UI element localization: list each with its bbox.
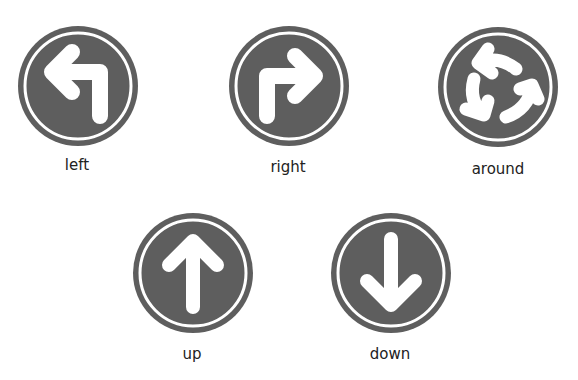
up-arrow-icon [131,211,255,335]
down-sign [329,211,453,335]
down-arrow-icon [329,211,453,335]
down-label: down [330,345,450,363]
left-label: left [17,156,137,174]
turn-around-arrows-icon [436,25,560,149]
right-label: right [228,158,348,176]
around-sign [436,25,560,149]
up-label: up [132,345,252,363]
right-sign [227,24,351,148]
up-sign [131,211,255,335]
turn-left-arrow-icon [16,24,140,148]
left-sign [16,24,140,148]
turn-right-arrow-icon [227,24,351,148]
around-label: around [438,160,558,178]
